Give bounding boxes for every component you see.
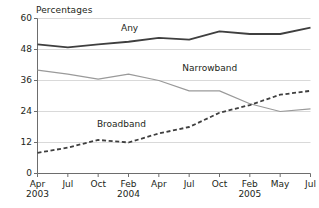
y-tick-label: 36 [10,76,32,85]
line-chart: Percentages 01224364860 Apr2003JulOctFeb… [0,0,318,208]
series-line-narrowband [38,70,311,111]
y-tick-label: 0 [10,169,32,178]
series-line-broadband [38,91,311,153]
y-tick-marks [34,19,38,174]
series-line-any [38,28,311,48]
y-tick-label: 24 [10,107,32,116]
gridlines [38,19,311,143]
y-tick-label: 60 [10,14,32,23]
series-label-narrowband: Narrowband [182,63,237,73]
y-tick-label: 48 [10,45,32,54]
x-tick-year-label: 2005 [230,189,270,199]
series-lines [38,28,311,153]
x-tick-year-label: 2003 [18,189,58,199]
plot-area [0,0,318,208]
x-tick-marks [38,174,311,178]
y-tick-label: 12 [10,138,32,147]
axis-lines [38,19,311,174]
x-tick-label: Jul [291,179,319,189]
series-label-any: Any [121,23,138,33]
x-tick-year-label: 2004 [109,189,149,199]
series-label-broadband: Broadband [97,119,146,129]
